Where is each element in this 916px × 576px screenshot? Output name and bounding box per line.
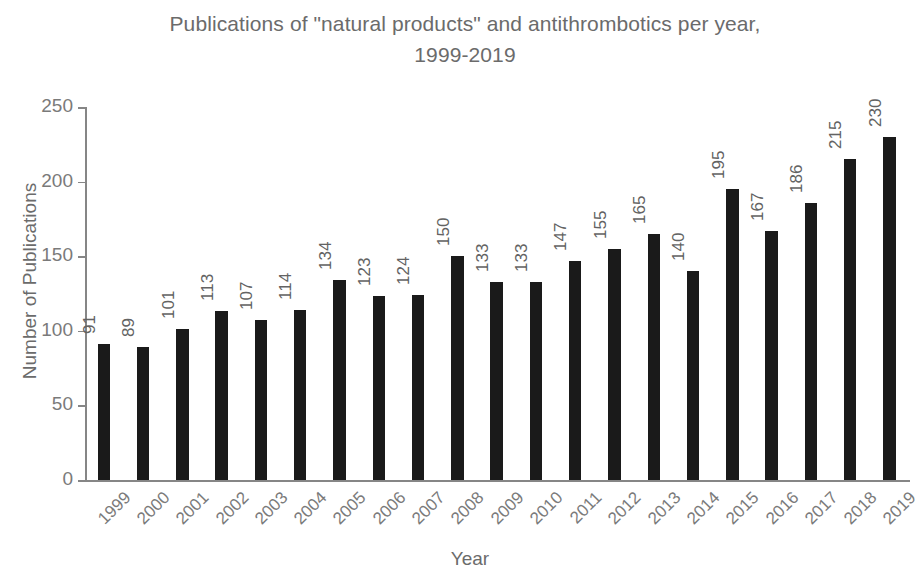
x-tick-label: 2002 (212, 488, 253, 529)
y-tick-mark (78, 256, 85, 258)
bar-value-text: 155 (591, 210, 611, 238)
bar-slot: 134 (321, 107, 359, 480)
x-axis-line (85, 480, 910, 482)
bar-slot: 165 (635, 107, 673, 480)
x-tick-label: 2003 (251, 488, 292, 529)
y-tick-label: 100 (13, 319, 73, 341)
bar (294, 310, 307, 480)
bar-slot: 195 (714, 107, 752, 480)
bar-value-text: 101 (159, 291, 179, 319)
x-tick-label: 2013 (644, 488, 685, 529)
bar (412, 295, 425, 480)
bar-slot: 186 (792, 107, 830, 480)
bar (176, 329, 189, 480)
bar-value-text: 195 (709, 151, 729, 179)
bar-slot: 133 (517, 107, 555, 480)
y-tick-label: 0 (13, 468, 73, 490)
x-tick-label: 2019 (880, 488, 916, 529)
bar (137, 347, 150, 480)
bar-value-text: 134 (316, 242, 336, 270)
bar-value-text: 140 (669, 233, 689, 261)
bar-value-text: 167 (748, 192, 768, 220)
x-tick-label: 2007 (408, 488, 449, 529)
x-axis-title: Year (380, 548, 560, 570)
y-tick-label: 150 (13, 244, 73, 266)
bar (451, 256, 464, 480)
bar (648, 234, 661, 480)
bar-slot: 230 (871, 107, 909, 480)
bar (490, 282, 503, 480)
bar (608, 249, 621, 480)
bar (333, 280, 346, 480)
bar-value-text: 165 (630, 195, 650, 223)
x-tick-label: 2000 (133, 488, 174, 529)
x-tick-label: 2004 (290, 488, 331, 529)
bar-value-text: 124 (394, 257, 414, 285)
bar-value-text: 150 (434, 218, 454, 246)
x-tick-label: 2014 (683, 488, 724, 529)
y-tick-label: 250 (13, 95, 73, 117)
bar (687, 271, 700, 480)
x-tick-label: 2001 (172, 488, 213, 529)
bar (530, 282, 543, 480)
x-tick-label: 2005 (330, 488, 371, 529)
x-tick-label: 2011 (566, 488, 606, 528)
plot-area: 050100150200250 918910111310711413412312… (85, 107, 910, 480)
x-tick-label: 2012 (605, 488, 646, 529)
bar-slot: 107 (242, 107, 280, 480)
bar (765, 231, 778, 480)
y-tick-label: 200 (13, 170, 73, 192)
bar-value-text: 186 (787, 164, 807, 192)
bar (726, 189, 739, 480)
y-tick-mark (78, 107, 85, 109)
bar-slot: 113 (203, 107, 241, 480)
bar (373, 296, 386, 480)
bar-slot: 123 (360, 107, 398, 480)
y-tick-label: 50 (13, 393, 73, 415)
bar (98, 344, 111, 480)
y-tick-mark (78, 182, 85, 184)
bar-slot: 150 (439, 107, 477, 480)
bar-value-text: 133 (473, 243, 493, 271)
bar-value-text: 91 (80, 315, 100, 334)
bar-value-text: 215 (826, 121, 846, 149)
x-tick-label: 2016 (762, 488, 803, 529)
bar (569, 261, 582, 480)
bar-slot: 101 (164, 107, 202, 480)
bar (805, 203, 818, 481)
bar-slot: 133 (478, 107, 516, 480)
x-tick-label: 2006 (369, 488, 410, 529)
bar (215, 311, 228, 480)
bar-value-text: 230 (866, 98, 886, 126)
y-tick-mark (78, 405, 85, 407)
bar-value-text: 114 (276, 273, 296, 300)
x-tick-label: 2008 (447, 488, 488, 529)
bar (255, 320, 268, 480)
x-tick-label: 1999 (94, 488, 135, 529)
y-tick-mark (78, 480, 85, 482)
bar-value-text: 133 (512, 243, 532, 271)
bar-slot: 215 (831, 107, 869, 480)
bar (844, 159, 857, 480)
x-tick-label: 2009 (487, 488, 528, 529)
bar-slot: 114 (281, 107, 319, 480)
bar-value-text: 147 (551, 222, 571, 250)
bar-value-text: 113 (198, 274, 218, 301)
x-tick-label: 2010 (526, 488, 567, 529)
bar (883, 137, 896, 480)
bar-chart: Publications of "natural products" and a… (0, 0, 916, 576)
chart-title: Publications of "natural products" and a… (70, 8, 860, 70)
bar-slot: 140 (674, 107, 712, 480)
bar-slot: 124 (399, 107, 437, 480)
bar-value-text: 123 (355, 258, 375, 286)
bar-slot: 167 (753, 107, 791, 480)
bar-slot: 155 (596, 107, 634, 480)
x-tick-label: 2017 (801, 488, 842, 529)
x-tick-label: 2015 (722, 488, 763, 529)
bar-slot: 89 (124, 107, 162, 480)
bar-slot: 91 (85, 107, 123, 480)
bar-value-text: 89 (119, 318, 139, 337)
bar-slot: 147 (556, 107, 594, 480)
bar-value-text: 107 (237, 282, 257, 310)
x-tick-label: 2018 (840, 488, 881, 529)
